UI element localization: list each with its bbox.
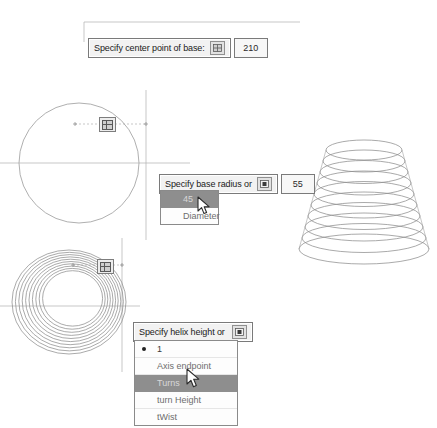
helix-height-prompt-label: Specify helix height or bbox=[139, 327, 225, 338]
osnap-marker-glyph bbox=[102, 120, 113, 130]
base-radius-value-field[interactable]: 55 bbox=[281, 174, 315, 194]
menu-item-label: 1 bbox=[157, 344, 162, 354]
base-radius-prompt-label: Specify base radius or bbox=[165, 179, 252, 190]
base-radius-options-menu[interactable]: 45 Diameter bbox=[160, 190, 219, 225]
menu-item-axis-endpoint[interactable]: Axis endpoint bbox=[135, 358, 237, 375]
osnap-marker-glyph bbox=[100, 262, 111, 272]
menu-item-label: Axis endpoint bbox=[157, 361, 211, 371]
helix-height-options-menu[interactable]: 1 Axis endpoint Turns turn Height tWist bbox=[134, 340, 238, 426]
selected-bullet-icon bbox=[142, 347, 146, 351]
dynamic-input-center-point[interactable]: Specify center point of base: 210 bbox=[88, 38, 268, 58]
menu-item-label: Turns bbox=[157, 378, 180, 388]
osnap-marker-spiral bbox=[97, 259, 114, 274]
cad-drawing-canvas[interactable]: .ln { fill:none; stroke:#9a9a9a; stroke-… bbox=[0, 0, 437, 428]
center-point-prompt-box: Specify center point of base: bbox=[88, 38, 231, 58]
osnap-marker-circle bbox=[99, 117, 116, 132]
menu-item-label: tWist bbox=[157, 412, 177, 422]
menu-item-diameter[interactable]: Diameter bbox=[161, 208, 218, 224]
menu-item-label: 45 bbox=[183, 194, 193, 204]
menu-item-turn-height[interactable]: turn Height bbox=[135, 392, 237, 409]
menu-item-label: Diameter bbox=[183, 211, 220, 221]
menu-item-twist[interactable]: tWist bbox=[135, 409, 237, 425]
helix-height-prompt-box: Specify helix height or bbox=[133, 322, 253, 342]
snap-grid-icon[interactable] bbox=[210, 41, 225, 55]
center-point-value-field[interactable]: 210 bbox=[234, 38, 268, 58]
menu-item-radius-value[interactable]: 45 bbox=[161, 191, 218, 208]
helix-3d-geometry bbox=[299, 140, 429, 264]
menu-item-turns[interactable]: Turns bbox=[135, 375, 237, 392]
dynamic-input-helix-height[interactable]: Specify helix height or bbox=[133, 322, 253, 342]
menu-item-height-value[interactable]: 1 bbox=[135, 341, 237, 358]
top-spiral-geometry bbox=[0, 238, 140, 372]
menu-item-label: turn Height bbox=[157, 395, 201, 405]
center-point-prompt-label: Specify center point of base: bbox=[94, 43, 205, 54]
dropdown-expand-icon[interactable] bbox=[232, 325, 247, 339]
dropdown-expand-icon[interactable] bbox=[257, 177, 272, 191]
